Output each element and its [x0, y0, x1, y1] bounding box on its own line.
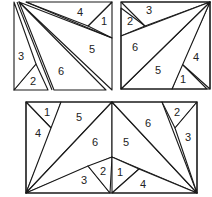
piece-label: 5 [76, 111, 82, 123]
piece-label: 3 [18, 50, 24, 62]
figure-top-left: 123456 [14, 2, 112, 90]
piece-label: 1 [101, 15, 107, 27]
piece-label: 6 [92, 136, 98, 148]
piece-label: 6 [145, 117, 151, 129]
figure-top-right: 123456 [121, 2, 210, 89]
piece-label: 4 [77, 6, 83, 18]
diagram-canvas: 123456123456145632562314 [0, 0, 212, 197]
piece-label: 2 [100, 165, 106, 177]
piece-label: 4 [35, 127, 41, 139]
piece-label: 1 [44, 106, 50, 118]
piece-label: 2 [174, 106, 180, 118]
piece-label: 3 [185, 131, 191, 143]
piece-label: 1 [117, 166, 123, 178]
piece-label: 2 [30, 75, 36, 87]
piece-label: 5 [123, 136, 129, 148]
piece-label: 2 [127, 15, 133, 27]
piece-label: 3 [146, 4, 152, 16]
piece-label: 4 [193, 51, 199, 63]
piece-label: 5 [89, 43, 95, 55]
piece-label: 6 [58, 65, 64, 77]
piece-label: 6 [132, 41, 138, 53]
figure-bottom: 145632562314 [26, 102, 197, 193]
piece-label: 5 [155, 64, 161, 76]
piece-label: 3 [81, 174, 87, 186]
puzzle-diagram: 123456123456145632562314 [0, 0, 212, 197]
piece-label: 1 [180, 73, 186, 85]
piece-label: 4 [140, 178, 146, 190]
